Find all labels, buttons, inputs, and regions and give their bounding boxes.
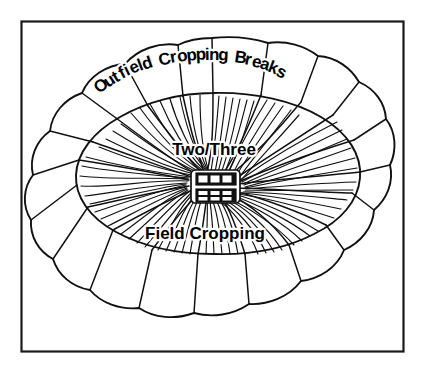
farm-layout-diagram: OutfieldCroppingBreaksOutfieldCroppingBr… bbox=[0, 0, 425, 373]
label-field-cropping-text: Field Cropping bbox=[145, 224, 265, 243]
label-two-three: Two/Three Two/Three bbox=[172, 140, 256, 159]
label-field-cropping: Field Cropping Field Cropping bbox=[145, 224, 265, 243]
label-outfield-glyph-15: g bbox=[218, 45, 229, 65]
label-two-three-text: Two/Three bbox=[172, 140, 256, 159]
figure-root: OutfieldCroppingBreaksOutfieldCroppingBr… bbox=[0, 0, 425, 373]
homestead-buildings bbox=[191, 170, 240, 203]
homestead-block-lower bbox=[196, 189, 236, 202]
homestead-block-upper bbox=[196, 173, 236, 185]
